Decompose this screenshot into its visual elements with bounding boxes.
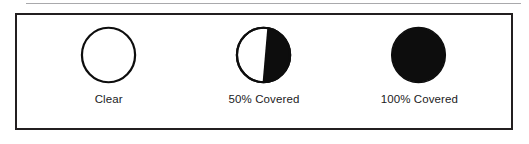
legend-figure-box: Clear 50% Covered 100% Covered [15, 13, 513, 130]
filled-circle-icon [390, 26, 448, 84]
legend-item-clear: Clear [34, 26, 184, 106]
legend-item-label: 100% Covered [381, 93, 458, 106]
top-horizontal-rule [26, 3, 521, 4]
legend-item-half-covered: 50% Covered [189, 26, 339, 106]
legend-item-label: 50% Covered [229, 93, 300, 106]
open-circle-outline-icon [80, 26, 138, 84]
legend-item-label: Clear [95, 93, 123, 106]
half-filled-circle-icon [235, 26, 293, 84]
legend-item-fully-covered: 100% Covered [344, 26, 494, 106]
symbol-legend-row: Clear 50% Covered 100% Covered [17, 15, 511, 128]
